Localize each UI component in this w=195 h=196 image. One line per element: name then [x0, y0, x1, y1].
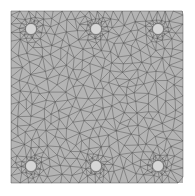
hole-6 [153, 161, 164, 172]
hole-4 [26, 161, 37, 172]
hole-3 [153, 24, 164, 35]
hole-1 [26, 24, 37, 35]
mesh-figure [0, 0, 195, 196]
hole-2 [91, 24, 102, 35]
hole-5 [91, 161, 102, 172]
